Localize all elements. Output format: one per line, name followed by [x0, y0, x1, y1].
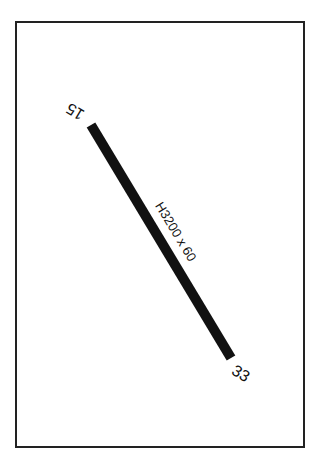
runway-diagram: 15 H3200 x 60 33	[0, 0, 311, 449]
runway-end-15-label: 15	[63, 100, 87, 124]
runway-end-33-label: 33	[229, 361, 253, 385]
runway-strip	[91, 125, 231, 358]
